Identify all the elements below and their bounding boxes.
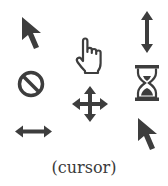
arrow-pointer-icon bbox=[20, 16, 44, 52]
arrow-pointer-icon bbox=[136, 117, 160, 153]
hourglass-icon bbox=[134, 64, 160, 102]
horizontal-resize-icon bbox=[15, 125, 52, 138]
not-allowed-icon bbox=[17, 70, 45, 98]
move-icon bbox=[72, 86, 108, 122]
vertical-resize-icon bbox=[140, 11, 154, 53]
figure-caption: (cursor) bbox=[0, 158, 168, 177]
hand-pointer-icon bbox=[74, 37, 106, 75]
